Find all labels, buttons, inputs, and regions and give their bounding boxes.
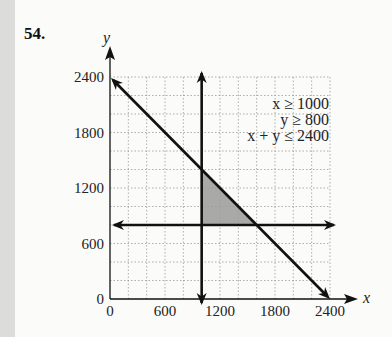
x-tick-label: 1200 [205, 303, 235, 319]
y-tick-label: 0 [97, 291, 105, 307]
y-tick-label: 1200 [74, 180, 104, 196]
linear-inequalities-graph: 06001200180024000600120018002400 x y x ≥… [0, 0, 392, 337]
x-axis-label: x [362, 289, 370, 306]
x-tick-label: 1800 [260, 303, 290, 319]
y-tick-label: 600 [82, 236, 105, 252]
constraint-label: x + y ≤ 2400 [247, 127, 329, 145]
x-tick-label: 0 [106, 303, 114, 319]
x-tick-label: 600 [154, 303, 177, 319]
y-tick-label: 1800 [74, 125, 104, 141]
y-tick-label: 2400 [74, 69, 104, 85]
y-axis-label: y [101, 29, 111, 47]
x-tick-label: 2400 [315, 303, 345, 319]
constraint-label: x ≥ 1000 [272, 95, 329, 112]
